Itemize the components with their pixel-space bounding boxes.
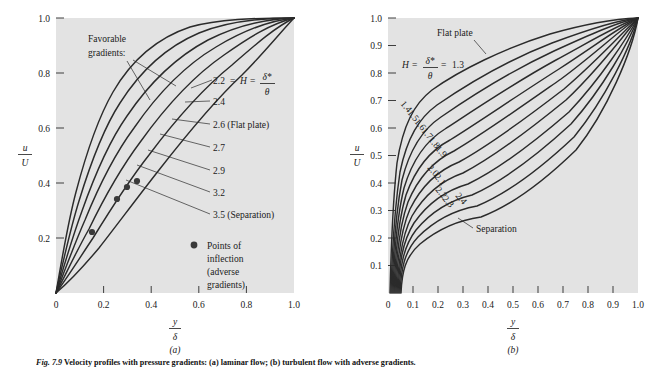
panel-a-plot-area: [56, 18, 294, 293]
panel-b-h-symbol: H: [401, 60, 410, 70]
panel-a-ylabel-num: u: [23, 143, 28, 153]
panel-a-label-2.4: 2.4: [213, 97, 225, 107]
panel-a-xlabel-den: δ: [173, 332, 178, 342]
panel-a-ytick-3: 0.6: [38, 124, 50, 134]
panel-a-h-equals2: =: [250, 76, 255, 86]
panel-b-ytick-3: 0.3: [370, 206, 382, 216]
panel-b: 1.0 0.9 0.8 0.7 0.6 0.5 0.4 0.3 0.2 0.1 …: [340, 0, 657, 355]
panel-a-xtick-3: 0.6: [193, 300, 205, 310]
panel-a-label-3.5: 3.5 (Separation): [213, 210, 274, 221]
panel-b-h-equals2: =: [441, 60, 446, 70]
panel-a-letter: (a): [169, 345, 180, 356]
panel-a-xtick-2: 0.4: [145, 300, 157, 310]
favorable-label-line2: gradients:: [88, 48, 125, 58]
panel-b-xtick-6: 0.6: [532, 300, 544, 310]
panel-b-xtick-4: 0.4: [482, 300, 494, 310]
panel-a-h-den: θ: [265, 87, 270, 97]
panel-a-label-2.9: 2.9: [213, 166, 225, 176]
panel-b-xtick-7: 0.7: [557, 300, 569, 310]
legend-line1: Points of: [207, 241, 242, 251]
panel-a: 1.0 0.8 0.6 0.4 0.2 0 0.2 0.4 0.6 0.8 1.…: [0, 0, 340, 355]
figure-container: 1.0 0.8 0.6 0.4 0.2 0 0.2 0.4 0.6 0.8 1.…: [0, 0, 657, 371]
caption-number: Fig. 7.9: [36, 358, 62, 367]
panel-b-ytick-10: 1.0: [370, 14, 382, 24]
panel-b-ytick-2: 0.2: [370, 234, 382, 244]
panel-a-xtick-1: 0.2: [98, 300, 110, 310]
panel-b-ytick-1: 0.1: [370, 261, 382, 271]
caption-text: Velocity profiles with pressure gradient…: [64, 358, 416, 367]
inflection-dot: [89, 229, 95, 235]
panel-a-ylabel-den: U: [22, 158, 30, 168]
panel-a-h-value: 2.2: [213, 76, 225, 86]
panel-a-ytick-5: 1.0: [38, 14, 50, 24]
legend-line4: gradients): [207, 280, 245, 291]
inflection-dot: [114, 196, 120, 202]
panel-b-flat-plate-label: Flat plate: [437, 28, 473, 38]
panel-a-label-3.2: 3.2: [213, 188, 225, 198]
legend-line2: inflection: [207, 254, 244, 264]
panel-b-xtick-3: 0.3: [457, 300, 469, 310]
panel-a-svg: 1.0 0.8 0.6 0.4 0.2 0 0.2 0.4 0.6 0.8 1.…: [0, 0, 340, 355]
bullet-marker-icon: [191, 242, 198, 249]
panel-a-label-2.6: 2.6 (Flat plate): [213, 120, 269, 131]
panel-a-h-equals1: =: [230, 76, 235, 86]
panel-b-ylabel-num: u: [355, 143, 360, 153]
inflection-dot: [124, 184, 130, 190]
panel-b-ytick-7: 0.7: [370, 96, 382, 106]
favorable-label-line1: Favorable: [88, 34, 126, 44]
panel-b-xlabel-den: δ: [511, 332, 516, 342]
panel-b-xtick-10: 1.0: [632, 300, 644, 310]
panel-a-xtick-4: 0.8: [240, 300, 252, 310]
panel-a-x-axis-title: y δ: [169, 317, 181, 342]
panel-b-ytick-4: 0.4: [370, 179, 382, 189]
panel-a-ytick-0: 0: [54, 300, 59, 310]
panel-b-xtick-2: 0.2: [432, 300, 444, 310]
panel-a-h-symbol: H: [239, 76, 248, 86]
panel-b-letter: (b): [507, 345, 518, 356]
panel-a-label-2.7: 2.7: [213, 143, 225, 153]
panel-b-h-equals1: =: [412, 60, 417, 70]
panel-b-ytick-9: 0.9: [370, 41, 382, 51]
panel-a-xlabel-num: y: [172, 317, 178, 327]
panel-b-xtick-5: 0.5: [507, 300, 519, 310]
panel-b-xtick-1: 0.1: [407, 300, 419, 310]
panel-b-h-value: 1.3: [452, 60, 464, 70]
panel-b-ylabel-den: U: [354, 158, 362, 168]
panel-b-y-axis-title: u U: [350, 143, 364, 168]
panel-b-h-num: δ*: [425, 56, 434, 66]
panel-b-xlabel-num: y: [510, 317, 516, 327]
panel-a-ytick-1: 0.2: [38, 234, 50, 244]
panel-b-svg: 1.0 0.9 0.8 0.7 0.6 0.5 0.4 0.3 0.2 0.1 …: [340, 0, 657, 355]
panel-b-ytick-5: 0.5: [370, 151, 382, 161]
panel-b-h-den: θ: [428, 71, 433, 81]
panel-a-y-axis-title: u U: [18, 143, 32, 168]
panel-a-ytick-4: 0.8: [38, 69, 50, 79]
panel-b-ytick-0: 0: [386, 300, 391, 310]
panel-a-ytick-2: 0.4: [38, 179, 50, 189]
inflection-dot: [134, 178, 140, 184]
panel-b-x-axis-title: y δ: [507, 317, 519, 342]
panel-a-h-num: δ*: [262, 72, 271, 82]
panel-a-xtick-5: 1.0: [288, 300, 300, 310]
panel-b-xtick-8: 0.8: [582, 300, 594, 310]
figure-caption: Fig. 7.9 Velocity profiles with pressure…: [36, 358, 636, 371]
panel-b-ytick-6: 0.6: [370, 124, 382, 134]
legend-line3: (adverse: [207, 267, 239, 278]
panel-b-separation-label: Separation: [476, 224, 517, 234]
panel-b-xtick-9: 0.9: [607, 300, 619, 310]
panel-b-ytick-8: 0.8: [370, 69, 382, 79]
